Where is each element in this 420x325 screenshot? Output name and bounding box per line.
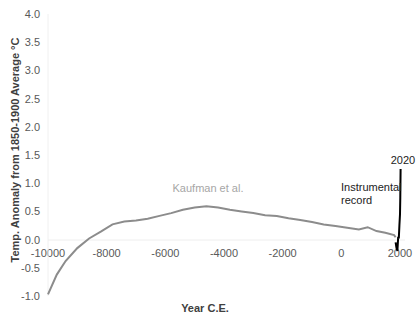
y-tick-label: 2.0: [25, 121, 40, 133]
kaufman-label: Kaufman et al.: [173, 182, 244, 194]
y-tick-label: -0.5: [21, 262, 40, 274]
y-tick-label: 1.0: [25, 177, 40, 189]
year-2020-label: 2020: [391, 154, 415, 166]
x-tick-label: -6000: [151, 247, 179, 259]
instrumental-label-line2: record: [341, 194, 372, 206]
y-tick-label: 1.5: [25, 149, 40, 161]
temperature-anomaly-chart: -1.0-0.50.00.51.01.52.02.53.03.54.0 -100…: [0, 0, 420, 325]
y-tick-label: -1.0: [21, 290, 40, 302]
x-tick-label: 2000: [388, 247, 412, 259]
y-axis-title: Temp. Anomaly from 1850-1900 Average °C: [9, 38, 21, 263]
y-tick-label: 4.0: [25, 8, 40, 20]
x-tick-label: -8000: [93, 247, 121, 259]
y-tick-label: 3.0: [25, 64, 40, 76]
x-tick-label: -4000: [210, 247, 238, 259]
y-tick-label: 3.5: [25, 36, 40, 48]
y-tick-label: 0.5: [25, 205, 40, 217]
x-tick-label: 0: [338, 247, 344, 259]
x-axis-tick-labels: -10000-8000-6000-4000-200002000: [31, 247, 412, 259]
x-axis-title: Year C.E.: [181, 302, 229, 314]
y-tick-label: 0.0: [25, 234, 40, 246]
instrumental-label-line1: Instrumental: [341, 181, 402, 193]
y-tick-label: 2.5: [25, 93, 40, 105]
x-tick-label: -2000: [269, 247, 297, 259]
